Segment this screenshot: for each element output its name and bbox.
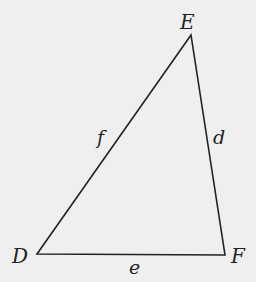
side-label-f: f [97, 128, 104, 147]
vertex-label-f: F [231, 246, 245, 266]
triangle-def [37, 35, 225, 255]
vertex-label-e: E [180, 12, 195, 32]
triangle-diagram: E D F f d e [0, 0, 256, 282]
side-label-e: e [129, 258, 140, 277]
side-label-d: d [213, 128, 225, 147]
vertex-label-d: D [12, 246, 28, 266]
